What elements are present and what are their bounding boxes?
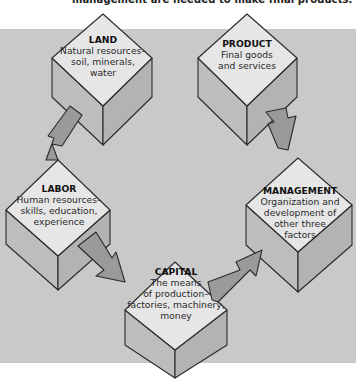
management-description: Organization and development of other th… — [250, 196, 350, 240]
land-label: LAND Natural resources– soil, minerals, … — [56, 34, 150, 78]
labor-label: LABOR Human resources– skills, education… — [6, 183, 112, 227]
product-description: Final goods and services — [200, 49, 294, 71]
labor-title: LABOR — [6, 183, 112, 194]
arrow-land-to-labor — [46, 106, 82, 160]
land-description: Natural resources– soil, minerals, water — [56, 45, 150, 78]
management-title: MANAGEMENT — [250, 185, 350, 196]
management-label: MANAGEMENT Organization and development … — [250, 185, 350, 240]
arrow-management-to-product — [266, 108, 296, 150]
capital-label: CAPITAL The means of production– factori… — [126, 266, 226, 321]
labor-description: Human resources– skills, education, expe… — [6, 194, 112, 227]
product-label: PRODUCT Final goods and services — [200, 38, 294, 71]
capital-description: The means of production– factories, mach… — [126, 277, 226, 321]
capital-title: CAPITAL — [126, 266, 226, 277]
product-title: PRODUCT — [200, 38, 294, 49]
land-title: LAND — [56, 34, 150, 45]
